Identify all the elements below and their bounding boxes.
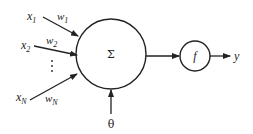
sigma-symbol: Σ — [107, 48, 115, 61]
svg-text:wN: wN — [45, 92, 58, 107]
svg-text:x1: x1 — [26, 9, 36, 25]
input-1: x1 w1 — [26, 9, 78, 36]
input-n-arrow — [30, 74, 77, 100]
output: y — [210, 49, 240, 63]
threshold: θ — [108, 90, 115, 131]
input-2: x2 w2 — [20, 34, 77, 55]
activation-node: f — [180, 41, 210, 71]
y-label: y — [233, 49, 240, 63]
input-n: xN wN — [15, 74, 77, 107]
theta-label: θ — [108, 118, 115, 131]
summation-node: Σ — [76, 19, 146, 89]
svg-text:w2: w2 — [46, 34, 57, 49]
f-label: f — [193, 49, 198, 63]
neuron-diagram: x1 w1 x2 w2 xN wN Σ θ f y — [0, 0, 253, 134]
ellipsis-dots — [51, 60, 53, 72]
svg-text:w1: w1 — [57, 10, 68, 25]
svg-text:x2: x2 — [20, 38, 30, 54]
svg-text:xN: xN — [15, 90, 27, 106]
